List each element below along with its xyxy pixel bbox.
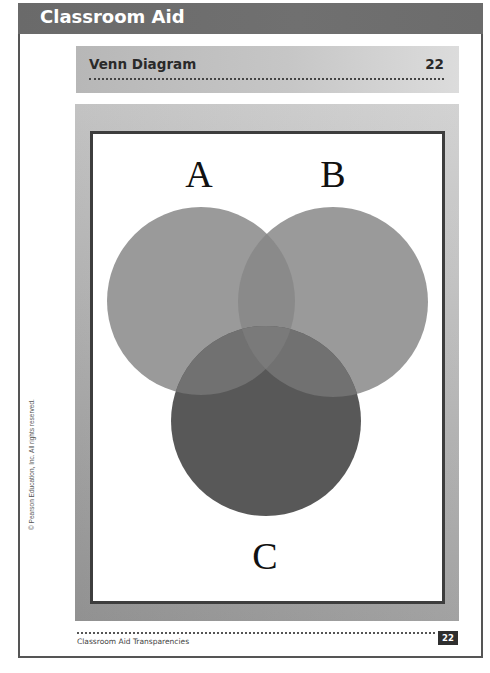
venn-diagram: A B C	[0, 0, 490, 673]
set-b-label: B	[320, 153, 345, 195]
footer-dotted-rule	[77, 632, 435, 634]
footer-text: Classroom Aid Transparencies	[77, 637, 189, 646]
footer-page-number: 22	[438, 631, 458, 645]
copyright-notice: © Pearson Education, Inc. All rights res…	[28, 399, 35, 530]
set-a-label: A	[185, 153, 213, 195]
set-c-label: C	[252, 535, 277, 577]
